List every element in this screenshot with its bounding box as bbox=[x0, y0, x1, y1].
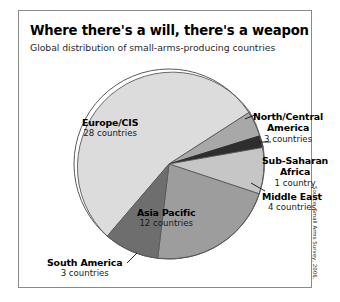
pie-label-south-america: South America 3 countries bbox=[47, 257, 122, 279]
pie-label-europe-cis: Europe/CIS 28 countries bbox=[82, 117, 138, 139]
pie-label-north-central-america-value: 3 countries bbox=[253, 134, 323, 144]
pie-label-asia-pacific-name: Asia Pacific bbox=[137, 207, 195, 218]
pie-label-sub-saharan-africa-name-line2: Africa bbox=[262, 166, 328, 177]
pie-label-sub-saharan-africa-value: 1 country bbox=[262, 178, 328, 188]
pie-label-north-central-america-name-line2: America bbox=[253, 122, 323, 133]
pie-label-asia-pacific: Asia Pacific 12 countries bbox=[137, 207, 195, 229]
pie-chart-plot: Europe/CIS 28 countries Asia Pacific 12 … bbox=[19, 11, 313, 289]
pie-label-europe-cis-name: Europe/CIS bbox=[82, 117, 138, 128]
pie-label-north-central-america: North/Central America 3 countries bbox=[253, 111, 323, 144]
source-credit: Source: Small Arms Survey, 2006. bbox=[312, 186, 318, 280]
pie-label-south-america-name: South America bbox=[47, 257, 122, 268]
pie-label-sub-saharan-africa: Sub-Saharan Africa 1 country bbox=[262, 155, 328, 188]
leader-line-south-america bbox=[127, 253, 137, 263]
pie-chart-svg bbox=[19, 11, 313, 289]
pie-label-europe-cis-value: 28 countries bbox=[82, 128, 138, 138]
pie-label-asia-pacific-value: 12 countries bbox=[137, 218, 195, 228]
pie-label-north-central-america-name-line1: North/Central bbox=[253, 111, 323, 122]
chart-figure: Where there's a will, there's a weapon G… bbox=[18, 10, 312, 288]
pie-label-south-america-value: 3 countries bbox=[47, 268, 122, 278]
pie-label-sub-saharan-africa-name-line1: Sub-Saharan bbox=[262, 155, 328, 166]
